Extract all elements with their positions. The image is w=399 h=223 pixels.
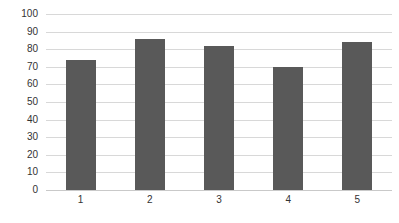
y-axis: 0102030405060708090100 bbox=[0, 14, 40, 190]
y-axis-tick-label: 40 bbox=[2, 115, 38, 125]
x-axis-tick-label: 2 bbox=[147, 194, 153, 206]
x-axis-tick-label: 1 bbox=[78, 194, 84, 206]
y-axis-tick-label: 0 bbox=[2, 185, 38, 195]
y-axis-tick-label: 50 bbox=[2, 97, 38, 107]
y-axis-tick-label: 30 bbox=[2, 132, 38, 142]
x-axis: 12345 bbox=[46, 194, 392, 214]
y-axis-tick-label: 60 bbox=[2, 79, 38, 89]
bar bbox=[342, 42, 372, 190]
bar bbox=[135, 39, 165, 190]
y-axis-tick-label: 90 bbox=[2, 27, 38, 37]
x-axis-tick-label: 5 bbox=[355, 194, 361, 206]
bar-series bbox=[46, 14, 392, 190]
bar bbox=[273, 67, 303, 190]
bar bbox=[204, 46, 234, 190]
gridline bbox=[46, 190, 392, 191]
y-axis-tick-label: 10 bbox=[2, 167, 38, 177]
bar bbox=[66, 60, 96, 190]
y-axis-tick-label: 70 bbox=[2, 62, 38, 72]
x-axis-tick-label: 3 bbox=[216, 194, 222, 206]
y-axis-tick-label: 20 bbox=[2, 150, 38, 160]
x-axis-tick-label: 4 bbox=[285, 194, 291, 206]
bar-chart: 0102030405060708090100 12345 bbox=[0, 0, 399, 223]
y-axis-tick-label: 100 bbox=[2, 9, 38, 19]
y-axis-tick-label: 80 bbox=[2, 44, 38, 54]
